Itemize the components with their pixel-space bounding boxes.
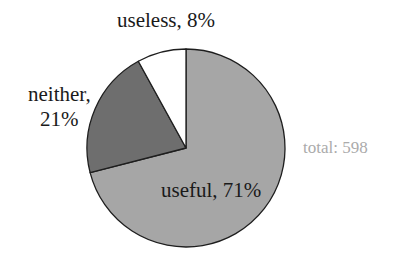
label-useless: useless, 8%: [117, 8, 215, 32]
total-annotation: total: 598: [303, 138, 368, 157]
pie-chart: useless, 8% neither, 21% useful, 71% tot…: [0, 0, 404, 261]
label-neither-line2: 21%: [40, 107, 79, 131]
label-useful: useful, 71%: [161, 178, 261, 202]
label-neither-line1: neither,: [28, 82, 91, 106]
pie-slices: [87, 49, 285, 247]
